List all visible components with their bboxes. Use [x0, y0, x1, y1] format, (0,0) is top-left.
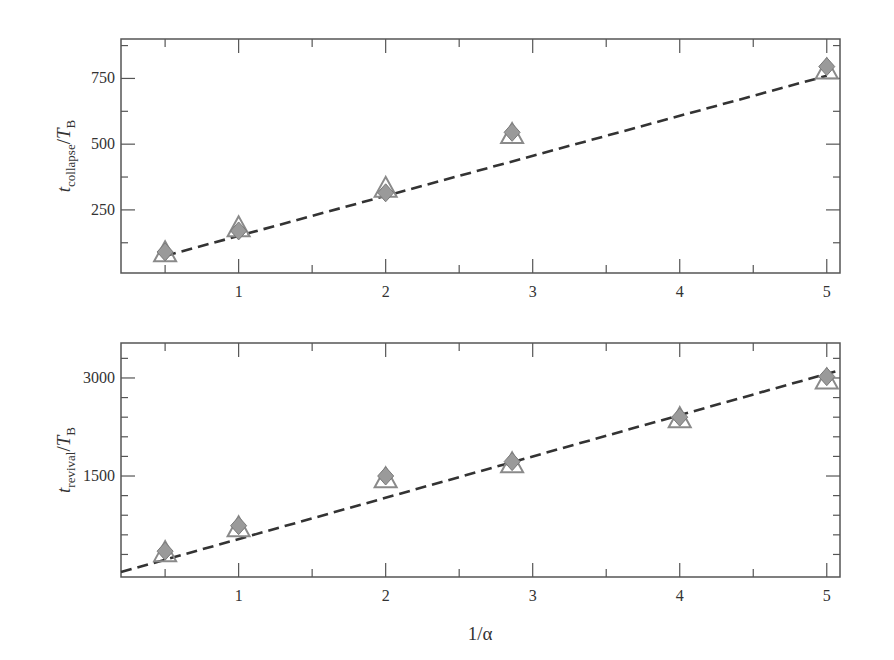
x-tick-label: 5 [823, 283, 831, 300]
y-tick-label: 1500 [83, 467, 115, 484]
fit-line [165, 76, 827, 256]
fit-line [121, 370, 840, 572]
diamond-marker [378, 467, 394, 485]
diamond-marker [504, 123, 520, 141]
y-tick-label: 250 [91, 201, 115, 218]
x-tick-label: 2 [382, 283, 390, 300]
diamond-marker [819, 58, 835, 76]
y-axis-label: trevival/TB [53, 427, 78, 493]
x-tick-label: 3 [529, 283, 537, 300]
plot-frame [121, 39, 840, 273]
y-axis-label: tcollapse/TB [53, 119, 78, 192]
diamond-marker [504, 453, 520, 471]
diamond-marker [157, 243, 173, 261]
x-tick-label: 3 [529, 587, 537, 604]
figure: 12345250500750tcollapse/TB 1234515003000… [0, 0, 894, 660]
diamond-marker [672, 408, 688, 426]
y-tick-label: 750 [91, 69, 115, 86]
x-tick-label: 4 [676, 587, 684, 604]
x-tick-label: 5 [823, 587, 831, 604]
x-tick-label: 4 [676, 283, 684, 300]
revival-time-panel: 1234515003000trevival/TB [53, 343, 840, 604]
x-axis-label: 1/α [468, 623, 493, 644]
x-tick-label: 2 [382, 587, 390, 604]
y-tick-label: 3000 [83, 369, 115, 386]
y-tick-label: 500 [91, 135, 115, 152]
x-tick-label: 1 [235, 283, 243, 300]
diamond-marker [819, 368, 835, 386]
diamond-marker [231, 517, 247, 535]
x-tick-label: 1 [235, 587, 243, 604]
collapse-time-panel: 12345250500750tcollapse/TB [53, 39, 840, 300]
